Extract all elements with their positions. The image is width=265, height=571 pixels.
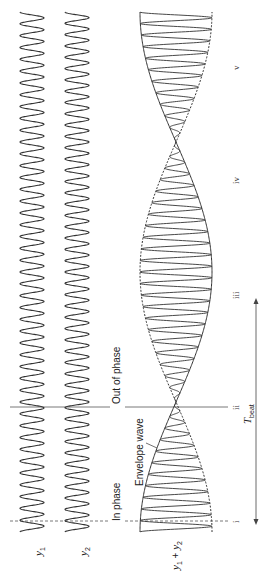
marker-iii: iii xyxy=(231,291,241,299)
label-out-of-phase: Out of phase xyxy=(112,347,122,404)
wave-y2 xyxy=(65,12,89,532)
arrowhead-up-icon xyxy=(254,298,259,304)
label-in-phase: In phase xyxy=(112,483,122,521)
label-y1-plus-y2: y1 + y2 xyxy=(170,541,185,570)
marker-i: i xyxy=(231,520,241,523)
wave-y1 xyxy=(20,12,44,532)
label-y1: y1 xyxy=(33,547,48,556)
arrowhead-down-icon xyxy=(254,519,259,525)
wave-sum-y1-plus-y2 xyxy=(140,12,212,532)
marker-ii: ii xyxy=(231,405,241,410)
beat-diagram xyxy=(0,0,265,571)
label-envelope-wave: Envelope wave xyxy=(135,418,145,486)
label-y2: y2 xyxy=(78,547,93,556)
marker-iv: iv xyxy=(231,177,241,184)
envelope-leader-line xyxy=(146,443,157,448)
marker-v: v xyxy=(231,65,241,70)
label-t-beat: Tbeat xyxy=(242,404,257,424)
